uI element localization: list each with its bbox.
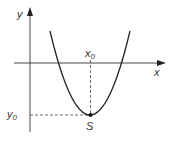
parabola-curve [50, 31, 130, 115]
y0-sub: 0 [13, 113, 18, 122]
x0-label: x0 [84, 47, 96, 61]
vertex-label: S [86, 120, 94, 132]
x-axis-label: x [153, 66, 160, 78]
parabola-diagram: y x x0 y0 S [0, 0, 171, 142]
y-axis-arrow-icon [27, 7, 33, 16]
x0-sub: 0 [91, 52, 96, 61]
y0-label: y0 [6, 108, 18, 122]
vertex-point [89, 113, 93, 117]
y-axis-label: y [16, 8, 24, 20]
